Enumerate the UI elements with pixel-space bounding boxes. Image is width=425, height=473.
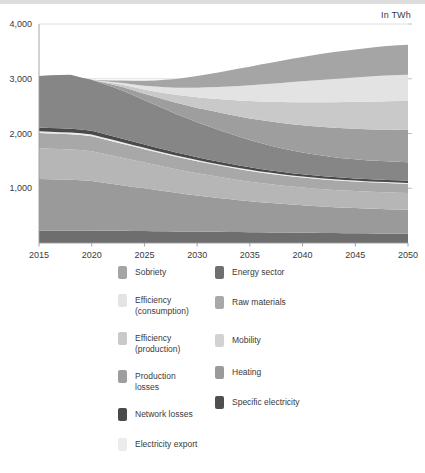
legend-label: Efficiency (production) [135, 332, 180, 354]
x-axis-tick-label: 2040 [293, 250, 313, 260]
chart-area: In TWh 1,0002,0003,0004,0002015202020252… [0, 4, 425, 266]
x-axis-tick-label: 2050 [398, 250, 418, 260]
legend-swatch [118, 332, 127, 345]
legend-swatch [215, 296, 224, 309]
legend-label: Energy sector [232, 266, 284, 278]
legend-swatch [215, 366, 224, 379]
legend-swatch [215, 396, 224, 409]
legend-swatch [118, 438, 127, 451]
figure: In TWh 1,0002,0003,0004,0002015202020252… [0, 0, 425, 473]
legend-label: Mobility [232, 334, 261, 346]
legend-swatch [215, 334, 224, 347]
legend-item[interactable]: Energy sector [215, 266, 284, 279]
legend-swatch [118, 294, 127, 307]
y-axis-tick-label: 3,000 [9, 74, 32, 84]
legend-label: Network losses [135, 408, 193, 420]
legend-item[interactable]: Network losses [118, 408, 193, 421]
x-axis-tick-label: 2020 [82, 250, 102, 260]
legend-label: Electricity export [135, 438, 197, 450]
legend-item[interactable]: Heating [215, 366, 261, 379]
legend-item[interactable]: Efficiency (consumption) [118, 294, 189, 316]
legend-label: Specific electricity [232, 396, 300, 408]
legend-item[interactable]: Efficiency (production) [118, 332, 180, 354]
y-axis-tick-label: 4,000 [9, 19, 32, 29]
legend-swatch [118, 370, 127, 383]
legend-item[interactable]: Specific electricity [215, 396, 300, 409]
x-axis-tick-label: 2015 [29, 250, 49, 260]
y-axis-tick-label: 2,000 [9, 129, 32, 139]
legend-swatch [215, 266, 224, 279]
x-axis-tick-label: 2025 [134, 250, 154, 260]
legend-label: Efficiency (consumption) [135, 294, 189, 316]
legend-swatch [118, 408, 127, 421]
x-axis-tick-label: 2045 [345, 250, 365, 260]
legend-label: Sobriety [135, 266, 166, 278]
legend-label: Production losses [135, 370, 176, 392]
legend-item[interactable]: Mobility [215, 334, 261, 347]
legend-item[interactable]: Electricity export [118, 438, 197, 451]
x-axis-tick-label: 2030 [187, 250, 207, 260]
x-axis-tick-label: 2035 [240, 250, 260, 260]
legend-item[interactable]: Raw materials [215, 296, 286, 309]
legend-item[interactable]: Sobriety [118, 266, 166, 279]
legend-item[interactable]: Production losses [118, 370, 176, 392]
y-axis-tick-label: 1,000 [9, 183, 32, 193]
legend-swatch [118, 266, 127, 279]
chart-legend: SobrietyEfficiency (consumption)Efficien… [0, 266, 425, 473]
legend-label: Raw materials [232, 296, 286, 308]
stacked-area-chart: 1,0002,0003,0004,00020152020202520302035… [0, 4, 425, 266]
legend-label: Heating [232, 366, 261, 378]
